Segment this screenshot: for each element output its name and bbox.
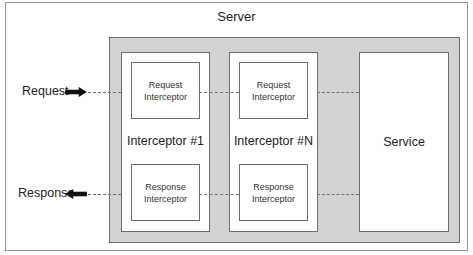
interceptor-1-label: Interceptor #1 [121,134,210,148]
request-interceptor-label: Request Interceptor [132,79,199,103]
request-label: Request [22,84,69,98]
request-connector-in [88,92,121,93]
response-interceptor-label: Response Interceptor [132,181,199,205]
interceptor-n-label: Interceptor #N [229,134,318,148]
interceptor-n-request-box: Request Interceptor [239,62,308,119]
request-connector-service [317,92,359,93]
request-connector-mid [199,92,239,93]
interceptor-1-request-box: Request Interceptor [131,62,200,119]
interceptor-n-response-box: Response Interceptor [239,164,308,221]
response-interceptor-label: Response Interceptor [240,181,307,205]
service-label: Service [383,135,425,149]
arrow-left-icon [64,189,88,199]
interceptor-1-response-box: Response Interceptor [131,164,200,221]
response-connector-out [88,194,121,195]
response-connector-mid [199,194,239,195]
arrow-right-icon [64,87,88,97]
request-interceptor-label: Request Interceptor [240,79,307,103]
response-connector-service [317,194,359,195]
service-box: Service [359,52,449,232]
server-title: Server [0,9,473,24]
